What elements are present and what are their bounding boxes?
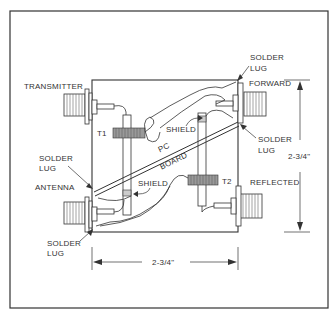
solder-lug-label-3a: SOLDER — [39, 154, 73, 163]
reflected-label: REFLECTED — [250, 178, 299, 187]
height-dimension-label: 2-3/4" — [288, 152, 310, 161]
solder-lug-label-2b: LUG — [258, 146, 275, 155]
shield-label-lower: SHIELD — [138, 179, 168, 188]
solder-lug-label-4a: SOLDER — [47, 239, 81, 248]
transmitter-connector — [64, 89, 114, 124]
width-dimension-label: 2-3/4" — [152, 258, 174, 267]
solder-lug-arrow-2 — [243, 127, 256, 138]
antenna-label: ANTENNA — [35, 183, 75, 192]
solder-lug-label-4b: LUG — [47, 249, 64, 258]
t2-label: T2 — [222, 177, 232, 186]
solder-lug-label-3b: LUG — [39, 164, 56, 173]
reflected-connector — [214, 186, 262, 226]
t1-label: T1 — [97, 129, 107, 138]
pc-board-label-pc: PC — [157, 141, 171, 154]
antenna-connector — [64, 197, 114, 232]
solder-lug-label-2a: SOLDER — [258, 135, 292, 144]
coupler-diagram: TRANSMITTER FORWARD ANTENNA REFLECTED T1… — [0, 0, 333, 315]
solder-lug-label-1b: LUG — [250, 64, 267, 73]
shield-label-upper: SHIELD — [166, 125, 196, 134]
solder-lug-label-1a: SOLDER — [250, 53, 284, 62]
forward-connector — [216, 83, 266, 123]
shield-arrow-lower — [138, 188, 150, 194]
transmitter-label: TRANSMITTER — [24, 82, 83, 91]
shield-arrowhead-lower — [133, 191, 138, 197]
